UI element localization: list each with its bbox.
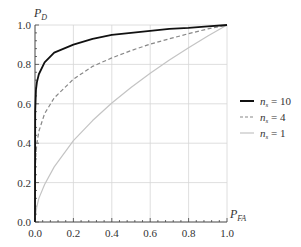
x-tick-label: 0.4 xyxy=(105,227,119,239)
x-axis-label: PFA xyxy=(229,207,246,223)
y-tick-label: 0.4 xyxy=(17,137,31,149)
y-tick-label: 0.0 xyxy=(17,216,31,228)
x-tick-label: 0.6 xyxy=(143,227,157,239)
roc-chart: 0.00.20.40.60.81.00.00.20.40.60.81.0 PD … xyxy=(0,0,301,247)
y-axis-label: PD xyxy=(33,6,47,22)
curve-n-s-1 xyxy=(35,25,227,222)
svg-text:ns = 1: ns = 1 xyxy=(260,127,285,141)
svg-text:ns = 10: ns = 10 xyxy=(260,95,291,109)
curve-n-s-10 xyxy=(35,25,227,222)
y-tick-label: 0.8 xyxy=(17,58,31,70)
x-tick-label: 0.8 xyxy=(182,227,196,239)
legend: ns = 10 ns = 4 ns = 1 xyxy=(240,95,291,141)
y-tick-label: 0.2 xyxy=(17,177,31,189)
legend-item-ns10: ns = 10 xyxy=(240,95,291,109)
x-tick-label: 0.2 xyxy=(67,227,81,239)
x-tick-label: 0.0 xyxy=(28,227,42,239)
y-tick-label: 1.0 xyxy=(17,19,31,31)
svg-text:ns = 4: ns = 4 xyxy=(260,111,286,125)
legend-item-ns1: ns = 1 xyxy=(240,127,285,141)
tick-labels: 0.00.20.40.60.81.00.00.20.40.60.81.0 xyxy=(17,19,234,239)
curve-n-s-4 xyxy=(35,25,227,222)
legend-item-ns4: ns = 4 xyxy=(240,111,286,125)
axes xyxy=(35,25,227,222)
y-tick-label: 0.6 xyxy=(17,98,31,110)
curves xyxy=(35,25,227,222)
grid-lines xyxy=(35,25,227,222)
x-tick-label: 1.0 xyxy=(220,227,234,239)
